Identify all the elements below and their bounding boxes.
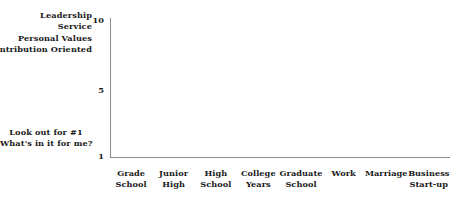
x-label-line: High <box>195 168 237 179</box>
x-axis-label-junior-high: Junior High <box>152 168 194 200</box>
annotation-line: Look out for #1 <box>0 127 92 138</box>
chart-container: Leadership Service Personal Values Contr… <box>0 0 457 203</box>
low-maturity-annotation: Look out for #1 What's in it for me? <box>0 127 92 150</box>
annotation-line: Leadership <box>0 10 92 21</box>
annotation-line: Contribution Oriented <box>0 44 92 55</box>
high-maturity-annotation: Leadership Service Personal Values Contr… <box>0 10 92 56</box>
x-label-line: Years <box>237 179 279 190</box>
x-label-line: College <box>237 168 279 179</box>
x-axis-label-graduate-school: Graduate School <box>280 168 323 200</box>
x-label-line: Work <box>323 168 365 179</box>
annotation-line: Personal Values <box>0 33 92 44</box>
x-axis-label-grade-school: Grade School <box>110 168 152 200</box>
x-label-line: School <box>195 179 237 190</box>
y-axis-tick-5: 5 <box>98 86 104 95</box>
x-axis-label-work: Work <box>323 168 365 200</box>
x-label-line: High <box>152 179 194 190</box>
x-axis-labels: Grade School Junior High High School Col… <box>110 168 450 200</box>
annotation-line: What's in it for me? <box>0 138 92 149</box>
x-label-line: Grade <box>110 168 152 179</box>
x-label-line: Business <box>408 168 450 179</box>
x-label-line: Marriage <box>365 168 408 179</box>
x-axis-label-business-startup: Business Start-up <box>408 168 450 200</box>
x-axis-label-high-school: High School <box>195 168 237 200</box>
x-label-line: Start-up <box>408 179 450 190</box>
x-label-line: School <box>110 179 152 190</box>
y-axis-tick-10: 10 <box>93 16 104 25</box>
x-axis-line <box>110 157 450 158</box>
x-label-line: Junior <box>152 168 194 179</box>
x-axis-label-college-years: College Years <box>237 168 279 200</box>
y-axis-tick-1: 1 <box>98 152 104 161</box>
annotation-line: Service <box>0 21 92 32</box>
x-axis-label-marriage: Marriage <box>365 168 408 200</box>
plot-area <box>111 18 450 157</box>
x-label-line: School <box>280 179 323 190</box>
x-label-line: Graduate <box>280 168 323 179</box>
